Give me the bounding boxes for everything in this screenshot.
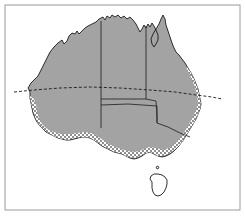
australia-map-svg bbox=[0, 0, 245, 220]
map-figure bbox=[0, 0, 245, 220]
